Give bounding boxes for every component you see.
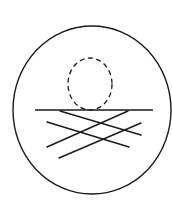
sunset-over-water-symbol: [0, 0, 172, 214]
reflection-line-3: [47, 122, 129, 147]
sun-dashed-circle-icon: [68, 58, 112, 110]
reflection-line-4: [59, 123, 141, 158]
reflection-line-2: [47, 111, 128, 147]
water-reflection-lines: [47, 111, 141, 158]
diagram-canvas: [0, 0, 172, 214]
